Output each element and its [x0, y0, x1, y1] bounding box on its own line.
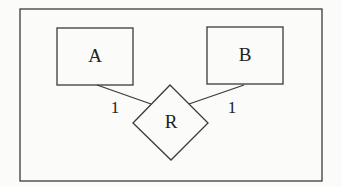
- cardinality-a: 1: [111, 98, 120, 117]
- relationship-r: R: [133, 85, 208, 160]
- connector-a-r: [97, 85, 151, 104]
- entity-a: A: [57, 28, 133, 85]
- relationship-r-label: R: [165, 111, 178, 132]
- diagram-frame: [20, 9, 322, 181]
- entity-b-label: B: [239, 44, 252, 65]
- er-diagram: A B R 1 1: [0, 0, 342, 187]
- entity-b: B: [207, 27, 283, 84]
- cardinality-b: 1: [228, 98, 237, 117]
- entity-a-label: A: [88, 45, 102, 66]
